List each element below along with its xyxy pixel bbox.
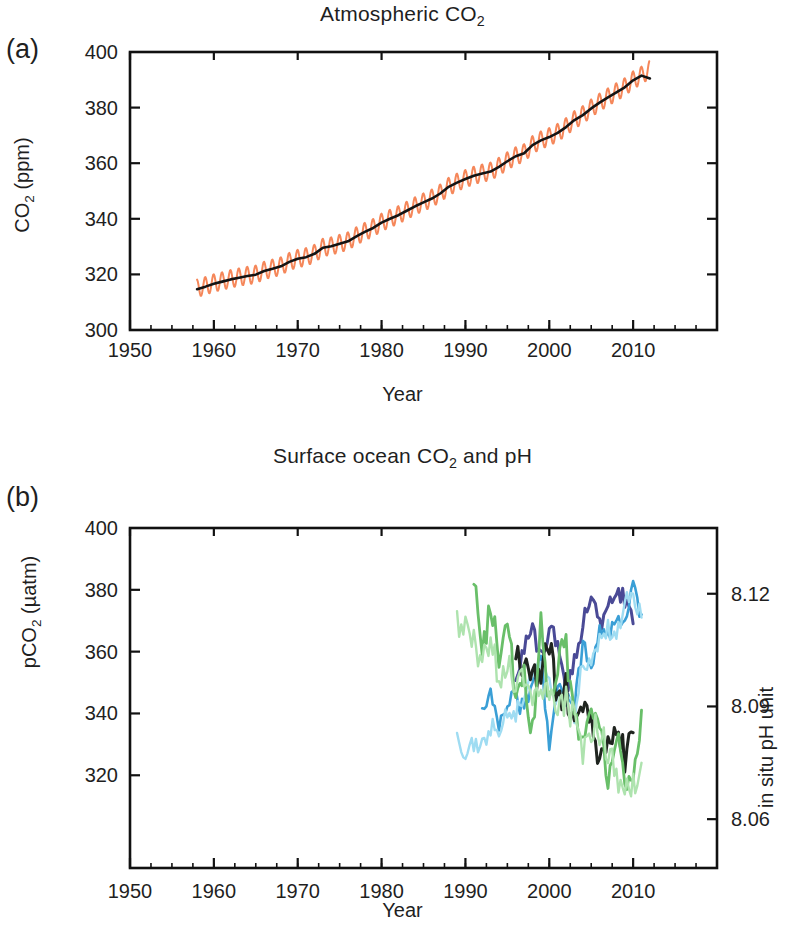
svg-text:340: 340	[85, 702, 118, 724]
svg-text:1980: 1980	[359, 880, 404, 902]
svg-text:340: 340	[85, 208, 118, 230]
figure-atmospheric-and-ocean-co2: Atmospheric CO2 (a) CO2 (ppm) Year 19501…	[0, 0, 805, 949]
svg-text:8.09: 8.09	[731, 695, 770, 717]
panel-b-surface-ocean-co2-ph: Surface ocean CO2 and pH (b) pCO2 (µatm)…	[0, 440, 805, 949]
svg-text:320: 320	[85, 263, 118, 285]
svg-text:1990: 1990	[443, 339, 488, 361]
panel-a-plot-area: 1950196019701980199020002010300320340360…	[0, 0, 805, 440]
svg-text:1970: 1970	[275, 880, 320, 902]
svg-text:360: 360	[85, 641, 118, 663]
svg-text:1990: 1990	[443, 880, 488, 902]
svg-text:1960: 1960	[192, 880, 237, 902]
svg-text:360: 360	[85, 152, 118, 174]
svg-text:320: 320	[85, 764, 118, 786]
svg-text:400: 400	[85, 41, 118, 63]
svg-text:1950: 1950	[108, 339, 153, 361]
svg-text:1970: 1970	[275, 339, 320, 361]
svg-text:400: 400	[85, 517, 118, 539]
svg-text:2000: 2000	[527, 339, 572, 361]
svg-text:2000: 2000	[527, 880, 572, 902]
svg-text:1980: 1980	[359, 339, 404, 361]
svg-text:380: 380	[85, 579, 118, 601]
svg-text:8.12: 8.12	[731, 583, 770, 605]
svg-text:8.06: 8.06	[731, 808, 770, 830]
svg-text:2010: 2010	[611, 339, 656, 361]
panel-a-atmospheric-co2: Atmospheric CO2 (a) CO2 (ppm) Year 19501…	[0, 0, 805, 440]
svg-text:380: 380	[85, 97, 118, 119]
svg-text:2010: 2010	[611, 880, 656, 902]
svg-text:300: 300	[85, 319, 118, 341]
svg-text:1960: 1960	[192, 339, 237, 361]
svg-text:1950: 1950	[108, 880, 153, 902]
panel-b-plot-area: 1950196019701980199020002010320340360380…	[0, 440, 805, 949]
